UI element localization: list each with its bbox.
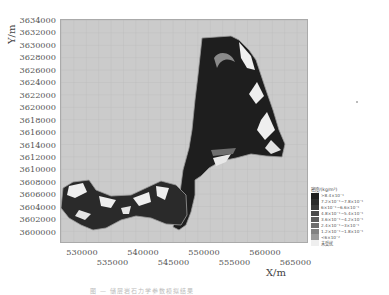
y-tick-label: 3608000 [14,178,56,187]
legend-entry: 未受扰 [311,240,363,246]
y-tick-label: 3622000 [14,91,56,100]
legend-label: 4.8×10⁻¹~5.4×10⁻¹ [321,211,363,216]
legend-swatch [311,223,319,229]
legend-entry: 4.8×10⁻¹~5.4×10⁻¹ [311,211,363,217]
y-tick-label: 3616000 [14,128,56,137]
y-tick-label: 3600000 [14,228,56,237]
y-tick-label: 3634000 [14,16,56,25]
y-tick-label: 3630000 [14,41,56,50]
y-tick-label: 3632000 [14,28,56,37]
x-tick-label: 565000 [271,258,321,267]
legend-swatch [311,229,319,235]
y-tick-label: 3610000 [14,165,56,174]
y-tick-label: 3604000 [14,203,56,212]
y-tick-label: 3618000 [14,116,56,125]
x-tick-label: 545000 [149,258,199,267]
y-tick-label: 3624000 [14,78,56,87]
x-axis-label: X/m [266,267,286,278]
legend-swatch [311,234,319,240]
legend-label: 未受扰 [321,240,333,246]
x-tick-label: 530000 [57,248,107,257]
legend-entry: 1.2×10⁻¹~1.8×10⁻¹ [311,228,363,234]
x-tick-label: 535000 [88,258,138,267]
legend-label: >8.4×10⁻¹ [321,193,344,198]
legend-label: 3.6×10⁻¹~4.2×10⁻¹ [321,217,363,222]
x-tick-label: 560000 [240,248,290,257]
map-heatmap [61,20,308,243]
y-tick-label: 3626000 [14,66,56,75]
y-tick-label: 3620000 [14,103,56,112]
legend-entry: 6×10⁻¹~6.6×10⁻¹ [311,205,363,211]
y-tick-label: 3628000 [14,53,56,62]
y-tick-label: 3606000 [14,190,56,199]
legend-swatch [311,205,319,211]
legend-label: 7.2×10⁻¹~7.8×10⁻¹ [321,199,363,204]
x-tick-label: 550000 [179,248,229,257]
legend-label: 1.2×10⁻¹~1.8×10⁻¹ [321,229,363,234]
legend-entry: 7.2×10⁻¹~7.8×10⁻¹ [311,199,363,205]
legend: 密度/(kg/m²) >8.4×10⁻¹7.2×10⁻¹~7.8×10⁻¹6×1… [311,187,363,246]
legend-label: 2.4×10⁻¹~3×10⁻¹ [321,223,359,228]
x-tick-label: 540000 [118,248,168,257]
legend-swatch [311,199,319,205]
figure-caption: 图 — 储层岩石力学参数模拟结果 [90,286,194,295]
legend-label: <6×10⁻² [321,235,340,240]
stray-mark [356,101,358,103]
legend-entry: 2.4×10⁻¹~3×10⁻¹ [311,222,363,228]
plot-area [60,19,308,243]
legend-label: 6×10⁻¹~6.6×10⁻¹ [321,205,359,210]
legend-swatch [311,240,319,246]
y-tick-label: 3602000 [14,215,56,224]
legend-swatch [311,217,319,223]
y-tick-label: 3614000 [14,141,56,150]
x-tick-label: 555000 [210,258,260,267]
y-tick-label: 3612000 [14,153,56,162]
legend-entry: 3.6×10⁻¹~4.2×10⁻¹ [311,217,363,223]
legend-swatch [311,193,319,199]
legend-swatch [311,211,319,217]
